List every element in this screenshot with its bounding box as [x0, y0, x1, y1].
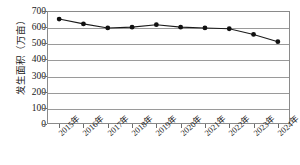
series-line: [59, 19, 278, 42]
data-point-marker: [275, 39, 280, 44]
data-point-marker: [227, 26, 232, 31]
data-point-marker: [57, 17, 62, 22]
data-point-marker: [154, 22, 159, 27]
y-axis-tick-mark: [42, 124, 47, 125]
line-chart: 发生面积（万亩） 7006005004003002001000 2015年201…: [0, 0, 300, 165]
series-marker-group: [57, 17, 281, 44]
data-point-marker: [178, 25, 183, 30]
data-point-marker: [105, 26, 110, 31]
data-point-marker: [130, 25, 135, 30]
data-point-marker: [251, 32, 256, 37]
data-point-marker: [81, 22, 86, 27]
data-series-layer: [47, 11, 290, 124]
data-point-marker: [203, 26, 208, 31]
